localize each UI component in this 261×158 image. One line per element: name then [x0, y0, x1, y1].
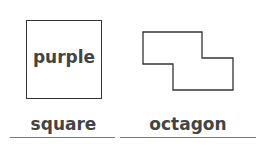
octagon-figure — [0, 0, 261, 158]
answer-line-square — [10, 137, 115, 138]
answer-label-octagon: octagon — [120, 114, 256, 134]
answer-line-octagon — [120, 137, 256, 138]
answer-label-square: square — [12, 114, 115, 134]
